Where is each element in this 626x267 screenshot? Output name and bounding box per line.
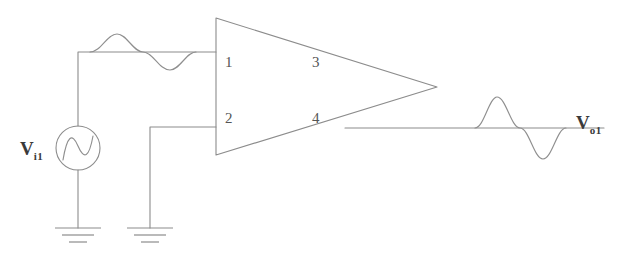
output-voltage-subscript: o1 (590, 124, 602, 136)
output-voltage-label: Vo1 (576, 113, 602, 136)
source-circle (56, 126, 100, 170)
opamp-pin-4-label: 4 (312, 111, 320, 126)
source-sine-glyph (63, 136, 93, 160)
source-voltage-label: Vi1 (20, 139, 43, 162)
ground-symbol-source (55, 228, 101, 242)
opamp-pin-3-label: 3 (312, 55, 320, 70)
opamp-pin-1-label: 1 (225, 55, 233, 70)
ground-symbol-noninverting (127, 228, 173, 242)
schematic-svg (0, 0, 626, 267)
source-voltage-symbol: V (20, 138, 34, 159)
source-voltage-subscript: i1 (34, 150, 43, 162)
opamp-pin-2-label: 2 (225, 111, 233, 126)
output-voltage-symbol: V (576, 112, 590, 133)
wire-ground-to-pin2 (150, 127, 216, 228)
wire-source-to-pin1 (78, 52, 216, 126)
circuit-diagram-canvas: 1 2 3 4 Vi1 Vo1 (0, 0, 626, 267)
opamp-triangle (216, 18, 437, 155)
